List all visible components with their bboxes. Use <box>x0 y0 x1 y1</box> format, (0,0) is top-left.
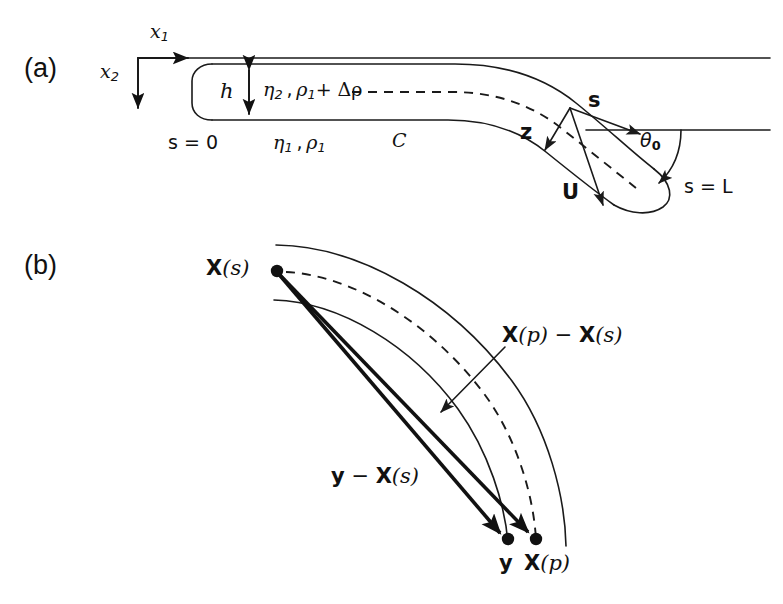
outer-fluid-eta: η <box>273 131 284 153</box>
axis-label-x1-symbol: x <box>150 20 161 42</box>
inner-fluid-rho-sub: 1 <box>307 87 315 102</box>
curve-name-label: C <box>392 131 407 150</box>
panel-b-graphics <box>271 245 566 546</box>
separation-field-minus: − <box>345 464 376 488</box>
separation-material-label: X(p) − X(s) <box>502 325 622 346</box>
inner-fluid-rho: ρ <box>296 78 307 100</box>
target-point-arg: (p) <box>540 551 570 575</box>
arclength-end-label: s = L <box>684 177 732 196</box>
vector-Xp-minus-Xs-arrow <box>277 272 528 532</box>
point-marker-y <box>502 533 514 545</box>
arclength-start-label: s = 0 <box>168 133 218 152</box>
separation-material-arg-2: (s) <box>595 323 622 347</box>
axis-label-x2-symbol: x <box>100 60 111 82</box>
separation-field-bold-2: X <box>376 464 392 488</box>
figure-root: (a) x1 x2 h η2 , ρ1+ Δρ s = 0 η1 , ρ1 C … <box>0 0 783 604</box>
outer-fluid-rho-sub: 1 <box>317 140 325 155</box>
separation-material-bold-2: X <box>579 323 595 347</box>
source-point-bold: X <box>206 256 222 280</box>
tip-angle-label: θ0 <box>640 131 661 153</box>
velocity-vector-label: U <box>562 182 579 203</box>
normal-vector-label: z <box>520 122 532 143</box>
inner-fluid-comma: , <box>283 78 297 100</box>
separation-label-leader-arrow <box>441 347 505 412</box>
separation-material-arg-1: (p) <box>518 323 548 347</box>
source-point-label: X(s) <box>206 258 249 279</box>
separation-field-label: y − X(s) <box>331 466 419 487</box>
tube-tip-cap <box>614 169 670 213</box>
separation-field-arg-2: (s) <box>392 464 419 488</box>
inner-fluid-label: η2 , ρ1+ Δρ <box>263 80 363 102</box>
tip-angle-arc <box>659 130 681 183</box>
source-point-arg: (s) <box>222 256 249 280</box>
axis-label-x1-subscript: 1 <box>161 29 169 44</box>
tip-angle-subscript: 0 <box>652 138 661 153</box>
outer-fluid-eta-sub: 1 <box>284 140 292 155</box>
outer-fluid-comma: , <box>293 131 307 153</box>
axis-label-x2: x2 <box>100 62 119 84</box>
inner-fluid-eta: η <box>263 78 274 100</box>
figure-canvas <box>0 0 783 604</box>
separation-field-bold-1: y <box>331 464 345 488</box>
normal-vector-arrow <box>545 108 570 150</box>
thickness-label: h <box>220 81 234 102</box>
outer-fluid-rho: ρ <box>306 131 317 153</box>
separation-material-minus: − <box>548 323 579 347</box>
panel-b-tag: (b) <box>24 252 57 279</box>
axis-label-x2-subscript: 2 <box>111 69 119 84</box>
band-outer-arc <box>276 245 566 546</box>
panel-a-tag: (a) <box>24 55 57 82</box>
separation-material-bold-1: X <box>502 323 518 347</box>
point-marker-Xp <box>530 533 542 545</box>
inner-fluid-delta-rho: + Δρ <box>316 78 363 100</box>
field-point-label: y <box>499 553 513 574</box>
tube-left-cap <box>192 64 212 120</box>
target-point-bold: X <box>524 551 540 575</box>
vector-y-minus-Xs-arrow <box>277 272 500 533</box>
outer-fluid-label: η1 , ρ1 <box>273 133 326 155</box>
axis-label-x1: x1 <box>150 22 169 44</box>
point-marker-Xs <box>271 265 283 277</box>
tip-angle-symbol: θ <box>640 129 652 151</box>
tangent-vector-label: s <box>588 90 601 111</box>
inner-fluid-eta-sub: 2 <box>274 87 282 102</box>
target-point-label: X(p) <box>524 553 570 574</box>
